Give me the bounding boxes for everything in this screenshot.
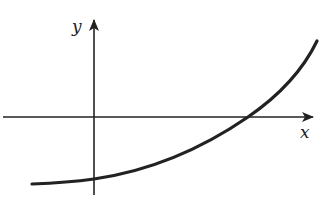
function-curve xyxy=(32,41,317,184)
x-axis-label: x xyxy=(300,122,310,142)
function-graph: y x xyxy=(0,0,330,202)
y-axis-label: y xyxy=(71,16,82,36)
graph-svg: y x xyxy=(0,0,330,202)
